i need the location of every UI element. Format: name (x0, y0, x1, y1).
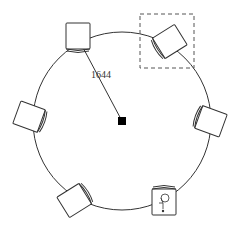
chair-backrest (152, 186, 176, 190)
dimension-label: 1644 (91, 69, 111, 80)
chair-right[interactable] (191, 104, 227, 137)
chair-top-left[interactable] (66, 23, 90, 53)
chair-left[interactable] (13, 101, 49, 134)
chair-seat (66, 23, 90, 49)
dimension-line (80, 42, 122, 121)
table-center-marker[interactable] (118, 117, 126, 125)
chair-backrest (66, 49, 90, 53)
chair-bottom-right[interactable] (152, 186, 176, 216)
seating-diagram: 1644 (0, 0, 246, 235)
